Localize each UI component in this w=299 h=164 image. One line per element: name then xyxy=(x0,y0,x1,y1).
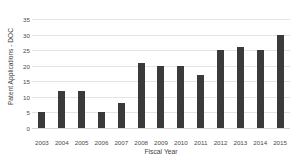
x-axis-tick-label: 2006 xyxy=(95,139,109,146)
x-tick-slot: 2014 xyxy=(250,131,270,143)
y-axis-tick-label: 25 xyxy=(23,47,30,54)
bar xyxy=(118,103,125,128)
bar-slot xyxy=(131,19,151,128)
x-axis-tick-label: 2014 xyxy=(253,139,267,146)
x-axis-tick-label: 2007 xyxy=(114,139,128,146)
bar-slot xyxy=(111,19,131,128)
bars-layer xyxy=(32,19,290,128)
x-axis-tick-label: 2008 xyxy=(134,139,148,146)
y-axis-tick-label: 30 xyxy=(23,31,30,38)
x-tick-slot: 2005 xyxy=(72,131,92,143)
bar xyxy=(78,91,85,128)
x-tick-slot: 2006 xyxy=(92,131,112,143)
bar-slot xyxy=(92,19,112,128)
bar-slot xyxy=(191,19,211,128)
x-tick-slot: 2015 xyxy=(270,131,290,143)
x-axis-tick-label: 2015 xyxy=(273,139,287,146)
x-axis-tick-label: 2005 xyxy=(75,139,89,146)
x-axis-title: Fiscal Year xyxy=(32,148,290,155)
x-tick-slot: 2003 xyxy=(32,131,52,143)
x-tick-slot: 2010 xyxy=(171,131,191,143)
x-tick-slot: 2012 xyxy=(211,131,231,143)
bar xyxy=(217,50,224,128)
bar xyxy=(197,75,204,128)
bar-slot xyxy=(250,19,270,128)
bar xyxy=(38,112,45,128)
axis-baseline xyxy=(32,128,290,129)
x-axis-tick-label: 2011 xyxy=(194,139,207,146)
bar-slot xyxy=(211,19,231,128)
x-axis-tick-label: 2012 xyxy=(214,139,228,146)
x-axis-tick-label: 2009 xyxy=(154,139,168,146)
x-tick-slot: 2004 xyxy=(52,131,72,143)
bar-slot xyxy=(32,19,52,128)
y-axis-tick-label: 20 xyxy=(23,62,30,69)
y-axis-tick-label: 15 xyxy=(23,78,30,85)
x-tick-slot: 2011 xyxy=(191,131,211,143)
bar xyxy=(98,112,105,128)
y-axis-tick-label: 5 xyxy=(27,109,30,116)
bar-chart: Patent Applications - DOC 05101520253035… xyxy=(0,0,299,164)
x-axis-tick-label: 2013 xyxy=(233,139,247,146)
bar xyxy=(257,50,264,128)
x-axis-tick-label: 2003 xyxy=(35,139,49,146)
x-axis-tick-label: 2004 xyxy=(55,139,69,146)
bar xyxy=(277,35,284,128)
x-axis-tick-labels: 2003200420052006200720082009201020112012… xyxy=(32,131,290,143)
bar xyxy=(157,66,164,128)
x-tick-slot: 2009 xyxy=(151,131,171,143)
x-tick-slot: 2007 xyxy=(111,131,131,143)
bar-slot xyxy=(52,19,72,128)
bar-slot xyxy=(171,19,191,128)
y-axis-tick-labels: 05101520253035 xyxy=(16,14,30,128)
y-axis-tick-label: 10 xyxy=(23,93,30,100)
bar xyxy=(58,91,65,128)
bar-slot xyxy=(270,19,290,128)
bar xyxy=(237,47,244,128)
plot-area xyxy=(32,19,290,128)
bar xyxy=(138,63,145,128)
y-axis-tick-label: 35 xyxy=(23,16,30,23)
bar-slot xyxy=(72,19,92,128)
bar-slot xyxy=(151,19,171,128)
y-axis-title-text: Patent Applications - DOC xyxy=(8,27,15,104)
x-tick-slot: 2013 xyxy=(230,131,250,143)
bar xyxy=(177,66,184,128)
bar-slot xyxy=(230,19,250,128)
x-axis-tick-label: 2010 xyxy=(174,139,188,146)
x-tick-slot: 2008 xyxy=(131,131,151,143)
y-axis-tick-label: 0 xyxy=(27,125,30,132)
